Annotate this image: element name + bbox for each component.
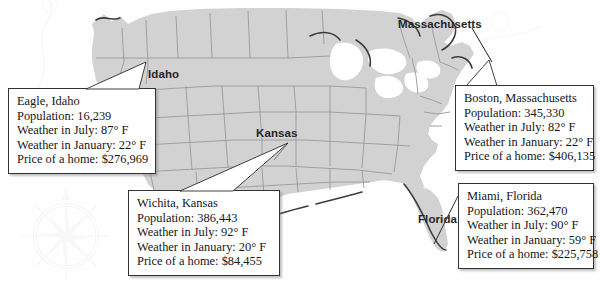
state-label-massachusetts: Massachusetts bbox=[398, 18, 482, 30]
callout-title: Wichita, Kansas bbox=[137, 196, 271, 211]
callout-box-miami-florida[interactable]: Miami, Florida Population: 362,470 Weath… bbox=[458, 183, 594, 269]
callout-july: Weather in July: 90° F bbox=[467, 218, 585, 233]
state-label-florida: Florida bbox=[418, 213, 457, 225]
callout-january: Weather in January: 20° F bbox=[137, 240, 271, 255]
callout-population: Population: 362,470 bbox=[467, 204, 585, 219]
callout-box-boston-massachusetts[interactable]: Boston, Massachusetts Population: 345,33… bbox=[455, 85, 594, 171]
callout-january: Weather in January: 22° F bbox=[17, 138, 147, 153]
callout-home-price: Price of a home: $84,455 bbox=[137, 254, 271, 269]
map-infographic: Idaho Kansas Massachusetts Florida Eagle… bbox=[0, 0, 600, 290]
callout-home-price: Price of a home: $276,969 bbox=[17, 152, 147, 167]
state-label-idaho: Idaho bbox=[148, 68, 179, 80]
callout-home-price: Price of a home: $406,135 bbox=[464, 149, 585, 164]
callout-population: Population: 386,443 bbox=[137, 211, 271, 226]
callout-july: Weather in July: 87° F bbox=[17, 123, 147, 138]
callout-box-wichita-kansas[interactable]: Wichita, Kansas Population: 386,443 Weat… bbox=[128, 190, 280, 276]
callout-title: Eagle, Idaho bbox=[17, 94, 147, 109]
callout-july: Weather in July: 82° F bbox=[464, 120, 585, 135]
callout-home-price: Price of a home: $225,758 bbox=[467, 247, 585, 262]
callout-january: Weather in January: 59° F bbox=[467, 233, 585, 248]
callout-january: Weather in January: 22° F bbox=[464, 135, 585, 150]
callout-title: Boston, Massachusetts bbox=[464, 91, 585, 106]
callout-population: Population: 345,330 bbox=[464, 106, 585, 121]
callout-july: Weather in July: 92° F bbox=[137, 225, 271, 240]
state-label-kansas: Kansas bbox=[256, 127, 298, 139]
callout-box-eagle-idaho[interactable]: Eagle, Idaho Population: 16,239 Weather … bbox=[8, 88, 156, 174]
callout-population: Population: 16,239 bbox=[17, 109, 147, 124]
callout-title: Miami, Florida bbox=[467, 189, 585, 204]
